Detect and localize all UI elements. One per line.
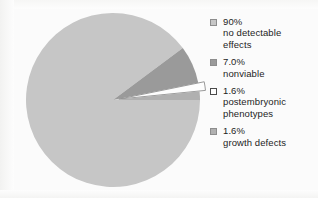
legend-label-postembryonic-phenotypes: 1.6% postembryonic phenotypes bbox=[223, 85, 286, 119]
legend-swatch-no-detectable-effects bbox=[210, 19, 217, 26]
pie-slice-group bbox=[26, 13, 205, 187]
legend-label-nonviable: 7.0% nonviable bbox=[223, 56, 265, 79]
legend-label-no-detectable-effects: 90% no detectable effects bbox=[223, 16, 281, 50]
legend-item-nonviable[interactable]: 7.0% nonviable bbox=[210, 56, 314, 79]
legend-item-growth-defects[interactable]: 1.6% growth defects bbox=[210, 125, 314, 148]
chart-legend: 90% no detectable effects 7.0% nonviable… bbox=[210, 16, 314, 154]
pie-slice[interactable] bbox=[26, 13, 200, 187]
legend-item-no-detectable-effects[interactable]: 90% no detectable effects bbox=[210, 16, 314, 50]
pie-chart-figure: 90% no detectable effects 7.0% nonviable… bbox=[0, 0, 318, 198]
legend-label-growth-defects: 1.6% growth defects bbox=[223, 125, 286, 148]
legend-swatch-growth-defects bbox=[210, 128, 217, 135]
legend-swatch-postembryonic-phenotypes bbox=[210, 88, 217, 95]
legend-swatch-nonviable bbox=[210, 59, 217, 66]
legend-item-postembryonic-phenotypes[interactable]: 1.6% postembryonic phenotypes bbox=[210, 85, 314, 119]
